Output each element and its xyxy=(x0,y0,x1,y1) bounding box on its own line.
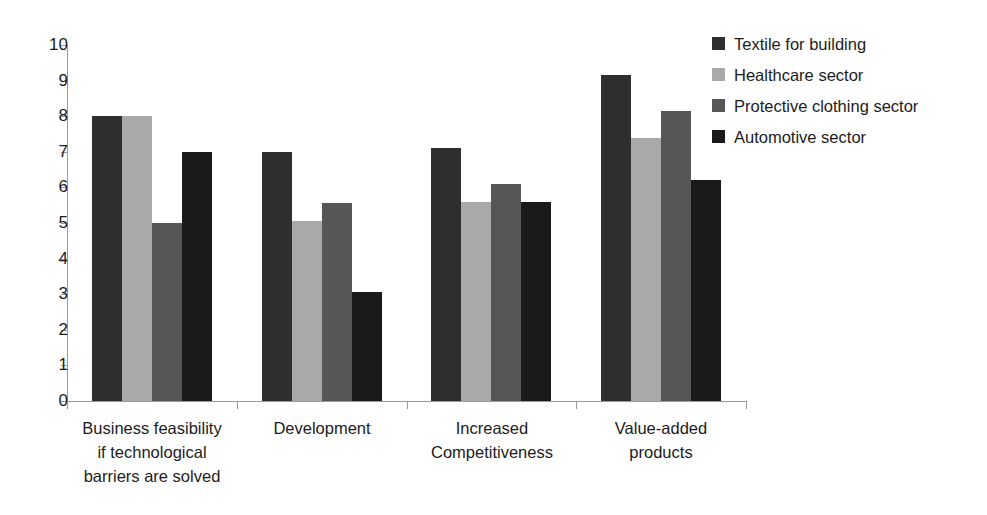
bar xyxy=(262,152,292,401)
y-axis-tick: 7 xyxy=(0,152,68,153)
bar xyxy=(122,116,152,401)
legend-item-label: Healthcare sector xyxy=(734,66,863,84)
y-axis-tick-label: 4 xyxy=(22,250,68,267)
x-axis-category-label: IncreasedCompetitiveness xyxy=(407,416,577,464)
bar xyxy=(601,75,631,401)
bar-chart: 109876543210 Business feasibilityif tech… xyxy=(0,0,987,515)
legend-item-label: Textile for building xyxy=(734,35,866,53)
chart-legend: Textile for buildingHealthcare sectorPro… xyxy=(712,28,982,152)
y-axis-tick-label: 0 xyxy=(22,392,68,409)
x-axis-category-label-line: Business feasibility xyxy=(67,416,237,440)
y-axis-tick: 0 xyxy=(0,401,68,402)
bar xyxy=(661,111,691,401)
bar xyxy=(461,202,491,401)
y-axis-tick-label: 7 xyxy=(22,143,68,160)
x-axis-tick-mark xyxy=(407,401,408,409)
legend-item-label: Protective clothing sector xyxy=(734,97,918,115)
y-axis-tick: 3 xyxy=(0,294,68,295)
bar xyxy=(92,116,122,401)
y-axis-tick: 8 xyxy=(0,116,68,117)
legend-color-swatch xyxy=(712,68,725,81)
y-axis-tick-label: 5 xyxy=(22,214,68,231)
y-axis-tick: 1 xyxy=(0,365,68,366)
y-axis-tick-label: 2 xyxy=(22,321,68,338)
bar xyxy=(182,152,212,401)
x-axis-tick-mark xyxy=(576,401,577,409)
x-axis-tick-mark xyxy=(237,401,238,409)
x-axis-tick-mark xyxy=(67,401,68,409)
y-axis-tick: 2 xyxy=(0,330,68,331)
x-axis-category-label: Development xyxy=(237,416,407,440)
legend-item[interactable]: Protective clothing sector xyxy=(712,90,982,121)
y-axis-tick: 9 xyxy=(0,81,68,82)
x-axis-tick-mark xyxy=(746,401,747,409)
y-axis-tick: 5 xyxy=(0,223,68,224)
bar xyxy=(631,138,661,401)
legend-color-swatch xyxy=(712,99,725,112)
x-axis-category-label: Business feasibilityif technologicalbarr… xyxy=(67,416,237,488)
y-axis-tick: 4 xyxy=(0,259,68,260)
y-axis-tick-label: 8 xyxy=(22,107,68,124)
y-axis-tick-label: 6 xyxy=(22,178,68,195)
legend-item[interactable]: Automotive sector xyxy=(712,121,982,152)
y-axis-tick: 10 xyxy=(0,45,68,46)
legend-item[interactable]: Textile for building xyxy=(712,28,982,59)
bar xyxy=(431,148,461,401)
x-axis-category-label-line: Development xyxy=(237,416,407,440)
x-axis-category-label-line: barriers are solved xyxy=(67,464,237,488)
x-axis-category-label-line: Competitiveness xyxy=(407,440,577,464)
y-axis-tick-label: 9 xyxy=(22,72,68,89)
bar xyxy=(691,180,721,401)
bar xyxy=(292,221,322,401)
bar xyxy=(521,202,551,401)
y-axis-tick-label: 10 xyxy=(22,36,68,53)
bar xyxy=(352,292,382,401)
legend-item[interactable]: Healthcare sector xyxy=(712,59,982,90)
x-axis-category-label-line: if technological xyxy=(67,440,237,464)
y-axis-tick-label: 3 xyxy=(22,285,68,302)
legend-color-swatch xyxy=(712,130,725,143)
bar xyxy=(491,184,521,401)
bar xyxy=(322,203,352,401)
x-axis-category-label-line: Increased xyxy=(407,416,577,440)
bar xyxy=(152,223,182,401)
x-axis-category-label-line: Value-added xyxy=(576,416,746,440)
x-axis-category-label: Value-addedproducts xyxy=(576,416,746,464)
x-axis-category-label-line: products xyxy=(576,440,746,464)
legend-color-swatch xyxy=(712,37,725,50)
legend-item-label: Automotive sector xyxy=(734,128,866,146)
y-axis-tick-label: 1 xyxy=(22,356,68,373)
y-axis-tick: 6 xyxy=(0,187,68,188)
